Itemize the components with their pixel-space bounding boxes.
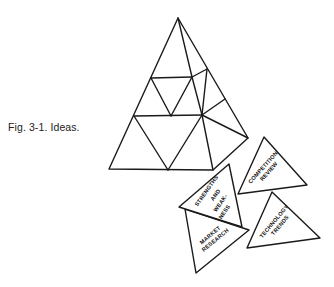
main-triangle [109,18,248,170]
ideas-diagram: MARKET RESEARCH STRENGTHS AND WEAK- NESS… [0,0,334,287]
inner-line [168,115,202,170]
inner-line [202,99,225,115]
inner-line [192,69,207,77]
inner-line [134,116,168,170]
piece-competition-review: COMPETITION REVIEW [238,137,307,194]
middle-crossbar [134,115,202,116]
inner-line [171,77,192,116]
upper-crossbar [151,77,192,78]
inner-line [178,18,192,77]
inner-line [202,115,213,170]
piece-technology-trends: TECHNOLOGY TRENDS [247,192,320,248]
inner-line [151,78,171,116]
main-outline [109,18,248,170]
inner-line [192,77,202,115]
inner-line [202,69,207,115]
